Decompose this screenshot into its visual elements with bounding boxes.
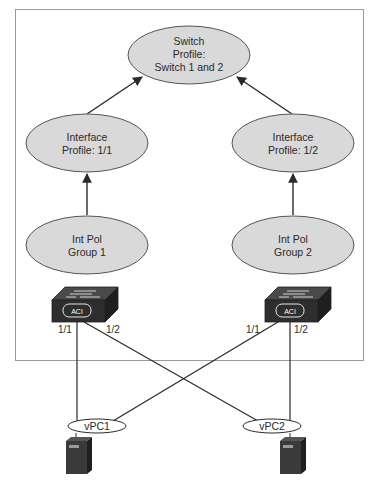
arrow-interface1-to-switch-profile bbox=[87, 77, 142, 114]
int-pol-group-1-line2: Group 1 bbox=[68, 246, 106, 258]
aci-badge-label: ACI bbox=[71, 308, 83, 315]
aci-badge-label: ACI bbox=[284, 308, 296, 315]
interface-profile-1-line1: Interface bbox=[67, 131, 108, 143]
vpc2-bundle[interactable]: vPC2 bbox=[243, 419, 301, 433]
int-pol-group-2-line1: Int Pol bbox=[278, 233, 308, 245]
interface-profile-1-line2: Profile: 1/1 bbox=[62, 144, 112, 156]
int-pol-group-2-line2: Group 2 bbox=[274, 246, 312, 258]
vpc1-label: vPC1 bbox=[84, 420, 110, 432]
link-switch2-p11-vpc1 bbox=[113, 322, 278, 421]
server-1-icon[interactable] bbox=[66, 433, 92, 474]
vpc1-bundle[interactable]: vPC1 bbox=[68, 419, 126, 433]
arrow-interface2-to-switch-profile bbox=[237, 77, 292, 114]
interface-profile-1-node: Interface Profile: 1/1 bbox=[26, 114, 148, 172]
int-pol-group-1-node: Int Pol Group 1 bbox=[26, 216, 148, 274]
int-pol-group-1-line1: Int Pol bbox=[72, 233, 102, 245]
switch2-port-1-1: 1/1 bbox=[246, 324, 260, 335]
interface-profile-2-line2: Profile: 1/2 bbox=[268, 144, 318, 156]
switch1-port-1-1: 1/1 bbox=[58, 324, 72, 335]
interface-profile-2-line1: Interface bbox=[273, 131, 314, 143]
aci-switch-1[interactable]: ACI 1/1 1/2 bbox=[52, 287, 120, 335]
link-switch1-p12-vpc2 bbox=[84, 322, 258, 421]
switch1-port-1-2: 1/2 bbox=[106, 324, 120, 335]
switch-profile-node: Switch Profile: Switch 1 and 2 bbox=[128, 26, 250, 84]
vpc2-label: vPC2 bbox=[259, 420, 285, 432]
switch-profile-line1: Switch bbox=[174, 35, 205, 47]
switch2-port-1-2: 1/2 bbox=[294, 324, 308, 335]
int-pol-group-2-node: Int Pol Group 2 bbox=[232, 216, 354, 274]
switch-profile-line3: Switch 1 and 2 bbox=[155, 61, 224, 73]
server-2-icon[interactable] bbox=[280, 433, 306, 474]
switch-profile-line2: Profile: bbox=[173, 48, 206, 60]
interface-profile-2-node: Interface Profile: 1/2 bbox=[232, 114, 354, 172]
aci-switch-2[interactable]: ACI 1/1 1/2 bbox=[246, 287, 331, 335]
aci-vpc-diagram: Switch Profile: Switch 1 and 2 Interface… bbox=[0, 0, 374, 485]
